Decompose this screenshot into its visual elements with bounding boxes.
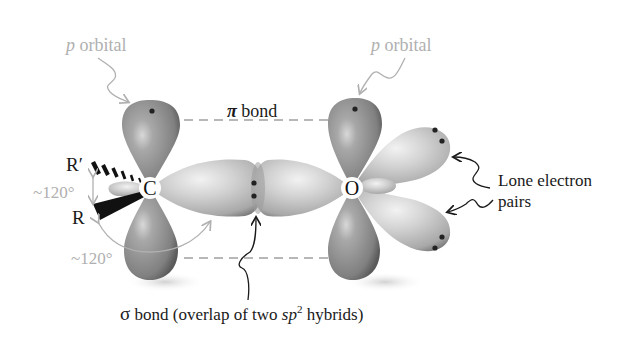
- sigma-bond-pointer: [239, 218, 256, 300]
- sigma-symbol: σ: [120, 303, 130, 324]
- p-orbital-left-label: p orbital: [66, 36, 127, 54]
- pi-bond-label: π bond: [227, 102, 277, 120]
- lone-pairs-line2: pairs: [498, 191, 592, 212]
- p-orbital-left-pointer: [98, 58, 128, 102]
- angle-top-label: ~120°: [33, 184, 75, 201]
- angle-text: ~120°: [71, 249, 113, 268]
- r-prime-text: R′: [66, 154, 83, 175]
- sigma-text: bond (overlap of two: [130, 305, 282, 324]
- electron-icon: [432, 245, 437, 250]
- r-label: R: [72, 208, 85, 227]
- electron-icon: [439, 234, 444, 239]
- sigma-bond-label: σ bond (overlap of two sp2 hybrids): [120, 304, 363, 323]
- oxygen-atom-label: O: [341, 177, 363, 199]
- electron-icon: [352, 106, 357, 111]
- oxygen-sp2-sigma-lobe: [254, 159, 352, 216]
- bond-text: bond: [237, 101, 278, 121]
- sp-italic: sp: [282, 305, 297, 324]
- r-prime-hashed-wedge: [93, 162, 141, 183]
- p-orbital-right-pointer: [360, 58, 405, 93]
- pi-symbol: π: [227, 101, 237, 121]
- angle-bottom-label: ~120°: [71, 250, 113, 267]
- electron-icon: [251, 180, 256, 185]
- lone-pair-pointer-lower: [448, 200, 493, 212]
- carbon-symbol: C: [143, 177, 156, 200]
- p-orbital-right-label: p orbital: [371, 36, 432, 54]
- lone-pair-pointer-upper: [454, 157, 490, 188]
- carbon-atom-label: C: [139, 177, 161, 199]
- sigma-overlap-region: [251, 162, 265, 214]
- electron-icon: [432, 127, 437, 132]
- carbon-sp2-sigma-lobe: [150, 159, 262, 216]
- electron-icon: [439, 138, 444, 143]
- oxygen-back-lobe: [360, 178, 396, 194]
- angle-text: ~120°: [33, 183, 75, 202]
- r-text: R: [72, 207, 85, 228]
- orbital-text: orbital: [380, 35, 432, 55]
- hybrids-text: hybrids): [302, 305, 363, 324]
- p-italic: p: [66, 35, 75, 55]
- lone-pairs-line1: Lone electron: [498, 170, 592, 191]
- orbital-text: orbital: [75, 35, 127, 55]
- electron-icon: [149, 108, 154, 113]
- r-prime-label: R′: [66, 155, 83, 174]
- oxygen-symbol: O: [345, 177, 359, 200]
- p-italic: p: [371, 35, 380, 55]
- lone-pairs-label: Lone electron pairs: [498, 170, 592, 212]
- electron-icon: [251, 193, 256, 198]
